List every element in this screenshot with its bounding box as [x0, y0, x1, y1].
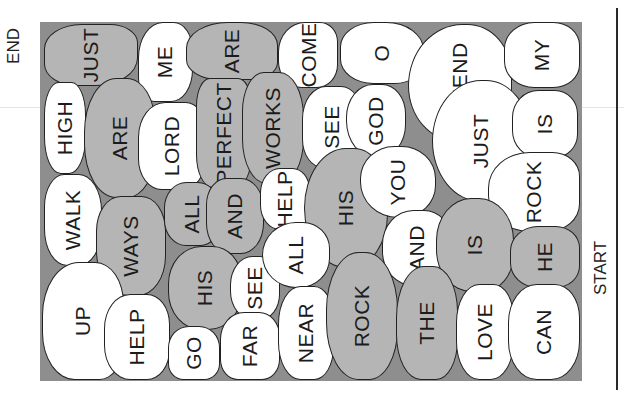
- stone-word: ARE: [220, 29, 244, 74]
- stone-word: ARE: [108, 116, 132, 161]
- stone[interactable]: MY: [504, 22, 580, 88]
- stone-word: UP: [71, 306, 95, 336]
- stone-word: THE: [415, 301, 439, 345]
- stone[interactable]: IS: [512, 90, 578, 158]
- stone-word: GOD: [364, 96, 388, 145]
- path-stone[interactable]: JUST: [44, 24, 138, 86]
- stone-word: WALK: [61, 190, 85, 251]
- start-label: START: [591, 241, 611, 295]
- stone-word: HIGH: [53, 101, 77, 156]
- stone-word: ROCK: [522, 161, 546, 224]
- stone-word: AND: [223, 193, 247, 239]
- stone-word: JUST: [469, 114, 493, 169]
- stone-word: HIS: [334, 190, 358, 227]
- path-stone[interactable]: ROCK: [326, 252, 398, 380]
- stone-word: LOVE: [473, 303, 497, 361]
- stone[interactable]: HELP: [260, 168, 310, 230]
- stone[interactable]: FAR: [220, 312, 280, 380]
- stone[interactable]: LOVE: [456, 284, 514, 380]
- stone-word: YOU: [386, 158, 410, 205]
- stone-word: HIS: [193, 270, 217, 307]
- stone-word: LORD: [160, 116, 184, 176]
- stone-word: HELP: [125, 309, 149, 366]
- stone[interactable]: WALK: [44, 174, 102, 266]
- stone[interactable]: YOU: [360, 146, 436, 218]
- stone-word: WAYS: [119, 215, 143, 277]
- stone[interactable]: GO: [168, 326, 220, 380]
- stone-word: HE: [533, 242, 557, 272]
- stone-word: ME: [154, 46, 178, 79]
- stone-word: FAR: [238, 325, 262, 367]
- stone-word: HELP: [273, 171, 297, 228]
- stone[interactable]: CAN: [508, 284, 580, 380]
- stone-word: ALL: [180, 195, 204, 234]
- path-stone[interactable]: HE: [510, 226, 580, 288]
- stone-word: MY: [530, 39, 554, 72]
- stone-word: SEE: [243, 266, 267, 310]
- end-label: END: [4, 28, 24, 64]
- stone-word: CAN: [532, 309, 556, 355]
- stone-word: COME: [296, 23, 320, 88]
- stone[interactable]: HELP: [104, 294, 170, 380]
- stone-word: NEAR: [294, 303, 318, 363]
- path-stone[interactable]: THE: [396, 266, 458, 380]
- stone-word: O: [370, 45, 394, 62]
- stone[interactable]: ALL: [262, 222, 330, 288]
- stone-word: PERFECT: [212, 82, 236, 184]
- stone-word: WORKS: [261, 87, 285, 169]
- stone-word: IS: [463, 235, 487, 256]
- stone-word: GO: [182, 336, 206, 370]
- stone-word: SEE: [320, 105, 344, 149]
- path-stone[interactable]: AND: [206, 178, 264, 254]
- stone-word: ALL: [284, 236, 308, 275]
- divider-line: [616, 8, 618, 390]
- stone-word: JUST: [79, 28, 103, 83]
- stone-word: ROCK: [350, 285, 374, 348]
- stone-word: AND: [405, 225, 429, 271]
- stone-word: IS: [533, 114, 557, 135]
- stone[interactable]: HIGH: [44, 82, 86, 174]
- puzzle-board: JUSTMEARECOMEOFRIENDMYHIGHARELORDPERFECT…: [40, 22, 582, 381]
